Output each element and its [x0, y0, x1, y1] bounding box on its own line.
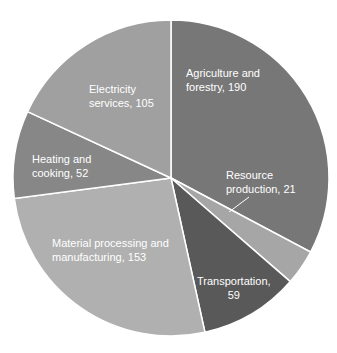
label-line: Material processing and — [52, 236, 169, 250]
label-line: cooking, 52 — [32, 166, 91, 180]
label-agriculture: Agriculture and forestry, 190 — [186, 66, 260, 94]
label-line: Transportation, — [197, 274, 271, 288]
label-line: forestry, 190 — [186, 80, 260, 94]
label-resource: Resource production, 21 — [226, 168, 296, 196]
label-line: services, 105 — [89, 96, 154, 110]
label-heating: Heating and cooking, 52 — [32, 152, 91, 180]
label-material: Material processing and manufacturing, 1… — [52, 236, 169, 264]
label-line: Heating and — [32, 152, 91, 166]
label-line: Agriculture and — [186, 66, 260, 80]
label-line: Resource — [226, 168, 296, 182]
label-line: 59 — [197, 288, 271, 302]
label-electricity: Electricity services, 105 — [89, 82, 154, 110]
label-line: production, 21 — [226, 182, 296, 196]
label-line: manufacturing, 153 — [52, 250, 169, 264]
label-line: Electricity — [89, 82, 154, 96]
label-transportation: Transportation, 59 — [197, 274, 271, 302]
